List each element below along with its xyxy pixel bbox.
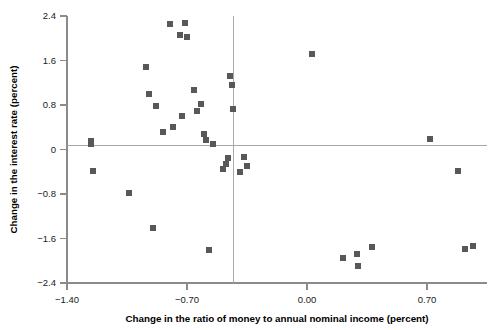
data-point (210, 141, 216, 147)
data-point (309, 51, 315, 57)
data-point (455, 168, 461, 174)
data-point (462, 246, 468, 252)
data-point (206, 247, 212, 253)
y-tick-label-2: −0.8 (37, 188, 56, 199)
data-point (227, 73, 233, 79)
y-tick-label-4: 0.8 (43, 99, 56, 110)
x-tick-label-2: 0.00 (298, 294, 317, 305)
plot-area: −2.4−1.6−0.800.81.62.4−1.40−0.700.000.70… (0, 0, 500, 330)
data-point (170, 124, 176, 130)
x-axis-title: Change in the ratio of money to annual n… (125, 313, 428, 324)
data-point (237, 169, 243, 175)
data-point (182, 20, 188, 26)
data-point (355, 263, 361, 269)
y-tick-label-1: −1.6 (37, 233, 56, 244)
data-point (203, 137, 209, 143)
x-tick-label-1: −0.70 (175, 294, 199, 305)
data-point (194, 108, 200, 114)
scatter-chart: −2.4−1.6−0.800.81.62.4−1.40−0.700.000.70… (0, 0, 500, 330)
data-point (198, 101, 204, 107)
data-point (244, 163, 250, 169)
data-point (146, 91, 152, 97)
data-point (230, 106, 236, 112)
data-point (177, 32, 183, 38)
data-point (167, 21, 173, 27)
data-point (191, 87, 197, 93)
y-axis-title: Change in the interest rate (percent) (8, 65, 19, 233)
data-point (179, 113, 185, 119)
data-point (126, 190, 132, 196)
data-point (88, 141, 94, 147)
data-point (354, 251, 360, 257)
data-point (143, 64, 149, 70)
y-tick-label-3: 0 (51, 144, 56, 155)
data-point (241, 154, 247, 160)
data-point (201, 131, 207, 137)
data-point (223, 161, 229, 167)
data-point (340, 255, 346, 261)
data-point (90, 168, 96, 174)
x-tick-label-3: 0.70 (418, 294, 437, 305)
y-tick-label-6: 2.4 (43, 10, 56, 21)
data-point (184, 34, 190, 40)
data-point (160, 129, 166, 135)
data-point (153, 103, 159, 109)
data-point (229, 82, 235, 88)
x-tick-label-0: −1.40 (55, 294, 79, 305)
y-tick-label-0: −2.4 (37, 277, 56, 288)
data-point (427, 136, 433, 142)
y-tick-label-5: 1.6 (43, 55, 56, 66)
data-point (225, 155, 231, 161)
data-point (470, 243, 476, 249)
data-point (150, 225, 156, 231)
data-point (369, 244, 375, 250)
